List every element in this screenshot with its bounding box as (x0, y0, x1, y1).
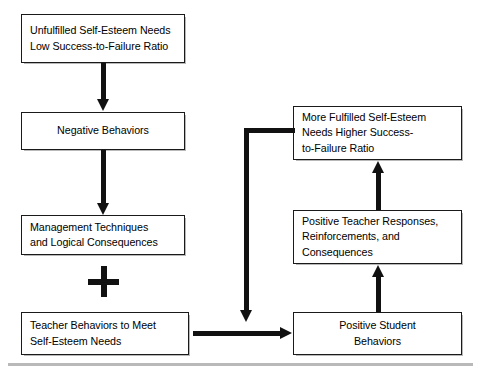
node-label: More Fulfilled Self-Esteem Needs Higher … (294, 110, 461, 157)
arrow-negative-to-management-stem (101, 150, 106, 204)
plus-operator-icon (88, 266, 119, 297)
arrow-teacher-to-student-head-icon (280, 327, 292, 339)
arrow-student-to-responses-stem (376, 276, 381, 312)
node-teacher-behaviors: Teacher Behaviors to Meet Self-Esteem Ne… (21, 312, 189, 355)
arrow-responses-to-more-fulfilled-stem (376, 172, 381, 210)
feedback-arrow-horizontal-segment (244, 128, 295, 133)
node-unfulfilled-self-esteem-needs: Unfulfilled Self-Esteem Needs Low Succes… (21, 14, 185, 63)
node-label: Management Techniques and Logical Conseq… (22, 220, 184, 251)
arrow-responses-to-more-fulfilled-head-icon (372, 161, 384, 173)
arrow-unfulfilled-to-negative-head-icon (97, 99, 109, 111)
node-label: Positive Teacher Responses, Reinforcemen… (294, 214, 461, 261)
node-more-fulfilled-self-esteem-needs: More Fulfilled Self-Esteem Needs Higher … (293, 106, 462, 160)
arrow-negative-to-management-head-icon (97, 203, 109, 215)
feedback-arrow-head-icon (240, 310, 252, 322)
node-label: Unfulfilled Self-Esteem Needs Low Succes… (22, 23, 184, 54)
arrow-unfulfilled-to-negative-stem (101, 63, 106, 100)
plus-vertical-bar (101, 266, 107, 297)
node-label: Positive Student Behaviors (294, 318, 461, 349)
node-negative-behaviors: Negative Behaviors (21, 112, 185, 150)
node-positive-teacher-responses: Positive Teacher Responses, Reinforcemen… (293, 210, 462, 264)
node-label: Teacher Behaviors to Meet Self-Esteem Ne… (22, 318, 188, 349)
node-management-techniques: Management Techniques and Logical Conseq… (21, 215, 185, 255)
node-positive-student-behaviors: Positive Student Behaviors (293, 312, 462, 355)
arrow-student-to-responses-head-icon (372, 265, 384, 277)
bottom-divider (8, 363, 473, 366)
arrow-teacher-to-student-stem (193, 331, 283, 336)
node-label: Negative Behaviors (22, 123, 184, 139)
flowchart-figure: Unfulfilled Self-Esteem Needs Low Succes… (0, 0, 481, 372)
feedback-arrow-vertical-segment (244, 128, 249, 311)
